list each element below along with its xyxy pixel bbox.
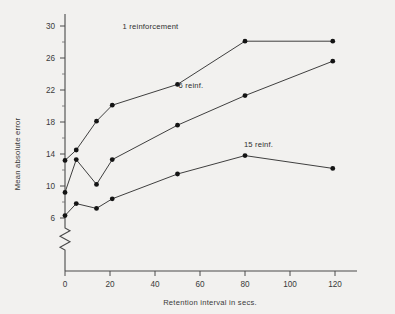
x-tick-label: 20	[105, 280, 115, 289]
series-line	[65, 41, 333, 160]
data-point	[243, 39, 248, 44]
x-tick-label: 100	[283, 280, 297, 289]
y-tick-label: 26	[46, 54, 56, 63]
x-tick-label: 120	[328, 280, 342, 289]
x-tick-label: 40	[150, 280, 160, 289]
data-point	[74, 157, 79, 162]
y-tick-label: 10	[46, 182, 56, 191]
data-point	[175, 123, 180, 128]
data-point	[330, 166, 335, 171]
x-axis-ticks	[65, 271, 335, 276]
y-tick-label: 22	[46, 86, 56, 95]
data-point	[94, 119, 99, 124]
data-point	[63, 213, 68, 218]
series-annotation-1: 1 reinforcement	[123, 22, 179, 31]
y-tick-label: 6	[50, 214, 55, 223]
data-point	[110, 196, 115, 201]
series-group	[63, 39, 336, 218]
data-point	[330, 39, 335, 44]
data-point	[330, 59, 335, 64]
y-axis-ticks	[60, 26, 65, 218]
series-line	[65, 156, 333, 216]
data-point	[74, 201, 79, 206]
data-point	[110, 157, 115, 162]
data-point	[243, 93, 248, 98]
data-point	[94, 182, 99, 187]
y-tick-label: 18	[46, 118, 56, 127]
y-axis-title: Mean absolute error	[13, 117, 22, 190]
x-tick-label: 0	[63, 280, 68, 289]
data-point	[94, 206, 99, 211]
series-2	[63, 59, 336, 195]
data-point	[243, 153, 248, 158]
data-point	[74, 148, 79, 153]
series-1	[63, 39, 336, 163]
x-axis-title: Retention interval in secs.	[163, 298, 257, 307]
x-tick-label: 60	[195, 280, 205, 289]
y-axis-line	[60, 14, 70, 271]
x-axis-tick-labels: 020406080100120	[63, 280, 343, 289]
chart-figure: 6101418222630 020406080100120 1 reinforc…	[0, 0, 395, 314]
axes-group: 6101418222630 020406080100120	[46, 14, 357, 289]
data-point	[110, 103, 115, 108]
y-axis-tick-labels: 6101418222630	[46, 22, 56, 223]
y-tick-label: 14	[46, 150, 56, 159]
data-point	[63, 158, 68, 163]
series-annotation-3: 15 reinf.	[244, 140, 273, 149]
x-tick-label: 80	[240, 280, 250, 289]
data-point	[175, 172, 180, 177]
chart-canvas: 6101418222630 020406080100120 1 reinforc…	[0, 0, 395, 314]
series-annotation-2: 6 reinf.	[179, 81, 204, 90]
series-3	[63, 153, 336, 218]
y-tick-label: 30	[46, 22, 56, 31]
data-point	[63, 190, 68, 195]
